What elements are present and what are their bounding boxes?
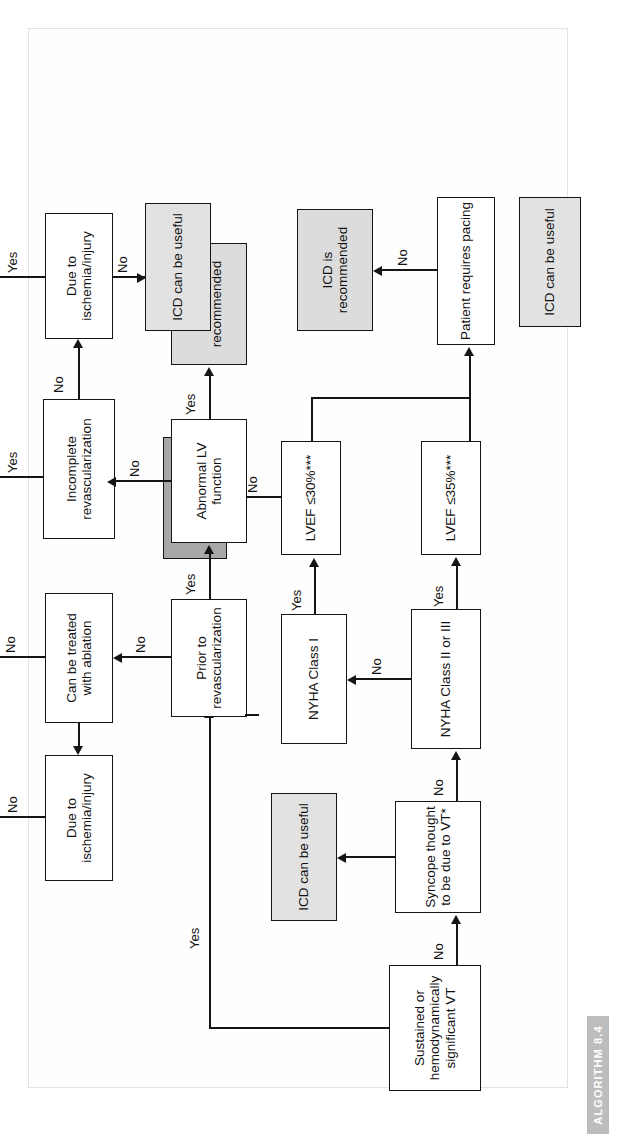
edge-ablation-no-arrow: [73, 746, 83, 755]
edge-label-incomplete-no: No: [51, 376, 66, 393]
edge-lv-yes-h: [209, 375, 211, 419]
edge-pacing-no-arrow: [373, 266, 382, 276]
edge-isch1-v: [0, 816, 45, 818]
edge-label-nyha23-no: No: [369, 658, 384, 675]
edge-prior-no-arrow: [113, 653, 122, 663]
edge-nyha23-yes-arrow: [451, 557, 461, 566]
edge-incomplete-yes-v: [0, 476, 43, 478]
node-lvef-35: LVEF ≤35%***: [421, 441, 481, 555]
node-syncope: Syncope thought to be due to VT*: [395, 801, 481, 913]
edge-label-prior-yes: Yes: [183, 574, 198, 595]
edge-label-pacing-no: No: [395, 249, 410, 266]
edge-label-sustained-yes: Yes: [187, 928, 202, 949]
edge-nyha23-no-v: [355, 678, 411, 680]
edge-prior-no-v: [121, 656, 171, 658]
figure-page: Sustained or hemodynamically significant…: [0, 0, 619, 1148]
node-sustained-vt: Sustained or hemodynamically significant…: [389, 965, 481, 1091]
edge-ablation-no: [78, 722, 80, 746]
edge-incomplete-no-arrow: [73, 339, 83, 348]
edge-nyha23-no-arrow: [347, 675, 356, 685]
edge-label-sustained-no: No: [431, 943, 446, 960]
edge-syncope-yes-arrow: [337, 853, 346, 863]
edge-syncope-yes-v: [345, 856, 395, 858]
edge-nyha23-yes: [456, 565, 458, 609]
edge-merge-to-pacing: [469, 355, 471, 399]
edge-prior-yes-down: [245, 714, 259, 716]
edge-isch2-yes-v: [0, 276, 45, 278]
edge-syncope-no-arrow: [451, 751, 461, 760]
node-abnormal-lv-function: Abnormal LV function: [171, 419, 247, 543]
figure-plate: Sustained or hemodynamically significant…: [28, 28, 568, 1088]
edge-syncope-no: [456, 759, 458, 801]
edge-nyha1-yes: [314, 566, 316, 614]
node-nyha-1: NYHA Class I: [281, 614, 347, 744]
edge-isch2-no-arrow: [137, 273, 146, 283]
algorithm-label-text: ALGORITHM 8.4: [592, 1025, 604, 1124]
edge-lv-yes-arrow: [204, 367, 214, 376]
node-can-be-treated-ablation: Can be treated with ablation: [45, 593, 113, 723]
node-due-ischemia-1: Due to ischemia/injury: [45, 755, 113, 881]
edge-label-syncope-no: No: [431, 779, 446, 796]
node-icd-useful-syncope: ICD can be useful: [271, 793, 337, 921]
edge-lvef35-yes-h: [469, 397, 471, 441]
edge-nyha1-yes-arrow: [309, 558, 319, 567]
edge-label-lv-no: No: [127, 460, 142, 477]
node-icd-useful-ischemia: ICD can be useful: [145, 203, 211, 331]
edge-lv-no-arrow: [107, 477, 116, 487]
flowchart-canvas: Sustained or hemodynamically significant…: [59, 59, 579, 1099]
edge-pacing-no-v: [381, 269, 437, 271]
node-nyha-2-3: NYHA Class II or III: [411, 609, 481, 749]
edge-lv-no-v: [115, 480, 171, 482]
edge-sustained-no: [456, 923, 458, 965]
edge-ablation-yes-v: [0, 656, 45, 658]
edge-label-isch1-no: No: [5, 796, 20, 813]
edge-label-lv-yes: Yes: [183, 394, 198, 415]
edge-label-prior-no: No: [133, 636, 148, 653]
edge-label-isch2-yes: Yes: [5, 252, 20, 273]
edge-sustained-yes-v: [209, 1027, 389, 1029]
node-icd-recommended-pacing: ICD is recommended: [297, 209, 373, 331]
edge-incomplete-no: [78, 347, 80, 399]
edge-prior-to-lv-arrow: [204, 545, 214, 554]
edge-lvef30-yes-v: [311, 397, 471, 399]
node-incomplete-revascularization: Incomplete revascularization: [43, 399, 115, 539]
edge-lvef30-yes-h: [311, 397, 313, 441]
edge-prior-to-lv-h: [209, 553, 211, 599]
edge-merge-arrow: [464, 347, 474, 356]
node-icd-useful-pacing: ICD can be useful: [519, 197, 581, 327]
node-due-ischemia-2: Due to ischemia/injury: [45, 213, 113, 339]
edge-label-ablation-no-top: No: [3, 636, 18, 653]
edge-sustained-yes-h: [209, 717, 211, 1029]
edge-label-incomplete-yes: Yes: [5, 452, 20, 473]
edge-sustained-no-arrow: [451, 915, 461, 924]
node-patient-requires-pacing: Patient requires pacing: [437, 197, 495, 345]
edge-label-isch2-no: No: [115, 256, 130, 273]
node-lvef-30: LVEF ≤30%***: [281, 441, 341, 555]
node-prior-revascularization: Prior to revascularization: [171, 599, 247, 717]
edge-label-lvef30-no: No: [245, 476, 260, 493]
edge-label-nyha1-yes: Yes: [289, 590, 304, 611]
algorithm-label-banner: ALGORITHM 8.4: [587, 1016, 609, 1134]
edge-label-nyha23-yes: Yes: [431, 586, 446, 607]
